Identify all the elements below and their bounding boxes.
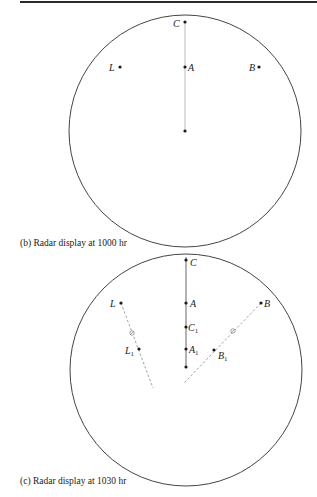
label-a: A xyxy=(189,298,197,309)
target-l-dot xyxy=(118,65,121,68)
own-ship-dot xyxy=(184,365,187,368)
target-a-dot xyxy=(184,301,187,304)
target-l1-dot xyxy=(137,347,140,350)
label-c1: C1 xyxy=(188,322,199,335)
target-a-dot xyxy=(183,65,186,68)
label-b1: B1 xyxy=(218,350,228,363)
target-a1-dot xyxy=(184,347,187,350)
radar-display-1000: C A L B xyxy=(0,0,317,250)
label-a: A xyxy=(187,62,195,73)
caption-b: (b) Radar display at 1000 hr xyxy=(20,238,127,248)
label-c: C xyxy=(190,257,197,268)
label-l: L xyxy=(108,62,115,73)
target-c-dot xyxy=(183,20,186,23)
label-l: L xyxy=(109,298,116,309)
target-b-dot xyxy=(257,65,260,68)
radar-display-1030: C A L B C1 A1 L1 B1 xyxy=(0,250,317,490)
cpa-marker-b-icon xyxy=(231,329,235,333)
label-c: C xyxy=(173,18,180,29)
cpa-marker-l-icon xyxy=(130,331,134,335)
target-l-dot xyxy=(119,301,122,304)
caption-c: (c) Radar display at 1030 hr xyxy=(20,476,126,486)
target-c-dot xyxy=(184,258,187,261)
label-a1: A1 xyxy=(188,344,199,357)
label-l1: L1 xyxy=(124,345,135,358)
label-b: B xyxy=(264,298,270,309)
own-ship-dot xyxy=(183,129,186,132)
target-b-dot xyxy=(259,301,262,304)
target-b1-dot xyxy=(212,348,215,351)
label-b: B xyxy=(249,62,255,73)
